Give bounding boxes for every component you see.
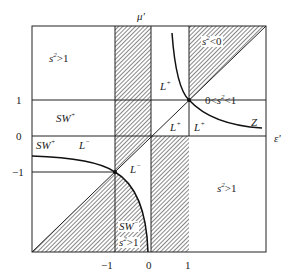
- y-axis-label: μ': [137, 11, 145, 22]
- region-l-minus-center: L−: [130, 164, 141, 175]
- region-top-right: s2<0: [201, 36, 223, 47]
- region-l-plus-low-a: L+: [170, 122, 181, 133]
- y-tick-1: 1: [16, 95, 22, 106]
- x-tick-minus1: −1: [101, 260, 113, 271]
- region-l-plus-low-b: L+: [194, 122, 205, 133]
- y-tick-minus1: −1: [12, 167, 24, 178]
- region-l-plus-top: L+: [160, 81, 171, 92]
- region-z-label: Z: [251, 117, 257, 128]
- region-bottom-right: s2>1: [217, 183, 237, 194]
- region-sw-plus-low: SW+: [36, 140, 55, 151]
- region-top-left: s2>1: [49, 53, 69, 64]
- x-tick-0: 0: [146, 260, 152, 271]
- region-sw-minus: SW−: [118, 221, 139, 232]
- region-zero-s-one: 0<s2<1: [205, 95, 236, 106]
- region-l-minus-left: L−: [79, 140, 90, 151]
- x-tick-1: 1: [185, 260, 191, 271]
- region-bottom-s: s2>1: [118, 237, 140, 248]
- region-sw-plus-mid: SW+: [56, 113, 75, 124]
- y-tick-0: 0: [16, 131, 22, 142]
- x-axis-label: ε': [274, 133, 281, 144]
